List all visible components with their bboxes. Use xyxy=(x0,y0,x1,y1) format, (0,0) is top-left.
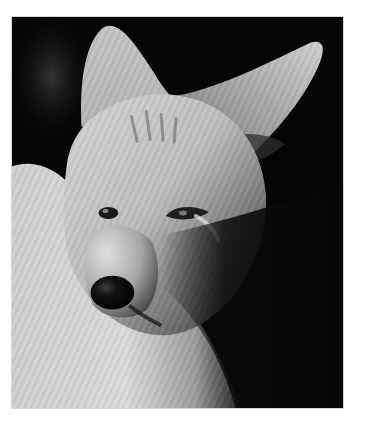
left-eye xyxy=(98,207,118,219)
canvas xyxy=(0,0,368,428)
coyote-photo-svg xyxy=(12,17,343,408)
coyote-photo xyxy=(11,16,344,409)
nose xyxy=(91,276,135,310)
